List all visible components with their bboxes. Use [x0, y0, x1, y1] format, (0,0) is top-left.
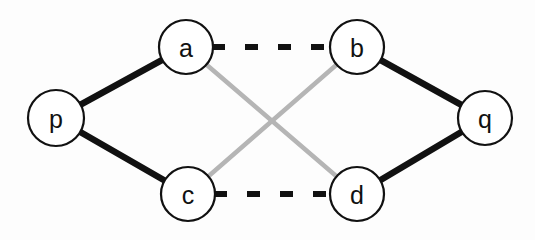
- graph-node-b[interactable]: b: [330, 20, 384, 74]
- edges-layer: [79, 47, 462, 194]
- graph-edge-b-q: [380, 60, 463, 106]
- graph-diagram: pabcdq: [0, 0, 535, 240]
- graph-node-a[interactable]: a: [159, 20, 213, 74]
- graph-node-c[interactable]: c: [161, 167, 215, 221]
- graph-canvas: pabcdq: [0, 0, 535, 240]
- node-label-p: p: [49, 105, 63, 133]
- node-label-c: c: [182, 181, 195, 209]
- node-label-a: a: [179, 34, 193, 62]
- graph-node-p[interactable]: p: [28, 90, 84, 146]
- graph-edge-p-a: [80, 59, 163, 105]
- graph-node-d[interactable]: d: [330, 167, 384, 221]
- node-label-d: d: [350, 181, 364, 209]
- node-label-q: q: [478, 105, 492, 133]
- graph-node-q[interactable]: q: [458, 91, 512, 145]
- graph-edge-p-c: [79, 131, 165, 181]
- graph-edge-d-q: [379, 131, 462, 180]
- node-label-b: b: [350, 34, 364, 62]
